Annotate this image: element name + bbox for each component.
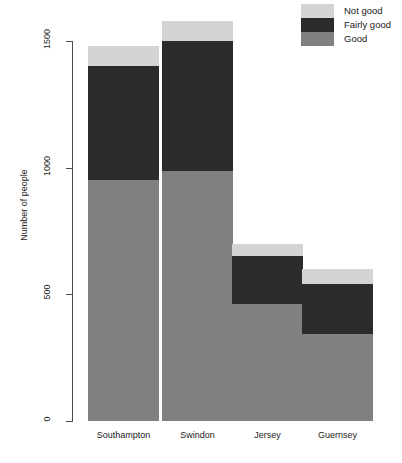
bar-segment-guernsey-not-good[interactable] (302, 269, 373, 284)
bar-segment-swindon-not-good[interactable] (162, 21, 233, 41)
y-axis-title: Number of people (19, 157, 29, 253)
y-tick-label-0: 0 (42, 406, 52, 432)
legend-swatch-icon (301, 4, 334, 18)
legend-label: Good (344, 32, 367, 46)
plot-area: 150010005000 Number of people Southampto… (0, 0, 402, 463)
y-axis-line (72, 41, 73, 422)
bar-segment-guernsey-fairly-good[interactable] (302, 284, 373, 333)
legend-label: Fairly good (344, 18, 391, 32)
bar-segment-jersey-fairly-good[interactable] (232, 256, 303, 304)
bar-segment-southampton-fairly-good[interactable] (88, 66, 159, 180)
y-tick-label-1500: 1500 (42, 26, 52, 52)
bar-segment-swindon-good[interactable] (162, 171, 233, 421)
y-tick-1000 (66, 168, 72, 169)
y-tick-label-500: 500 (42, 279, 52, 305)
bar-swindon[interactable] (162, 21, 233, 421)
y-tick-0 (66, 421, 72, 422)
bar-segment-southampton-good[interactable] (88, 180, 159, 421)
y-tick-label-1000: 1000 (42, 153, 52, 179)
y-tick-500 (66, 294, 72, 295)
legend-swatch-icon (301, 18, 334, 32)
bar-southampton[interactable] (88, 46, 159, 421)
bar-segment-guernsey-good[interactable] (302, 334, 373, 421)
x-label-guernsey: Guernsey (282, 430, 393, 440)
bar-guernsey[interactable] (302, 269, 373, 421)
stacked-bar-chart: 150010005000 Number of people Southampto… (0, 0, 402, 463)
bar-segment-swindon-fairly-good[interactable] (162, 41, 233, 171)
legend-swatch-icon (301, 32, 334, 46)
bar-segment-jersey-good[interactable] (232, 304, 303, 421)
y-tick-1500 (66, 41, 72, 42)
bar-segment-southampton-not-good[interactable] (88, 46, 159, 66)
bar-jersey[interactable] (232, 244, 303, 421)
bar-segment-jersey-not-good[interactable] (232, 244, 303, 257)
legend-label: Not good (344, 4, 383, 18)
